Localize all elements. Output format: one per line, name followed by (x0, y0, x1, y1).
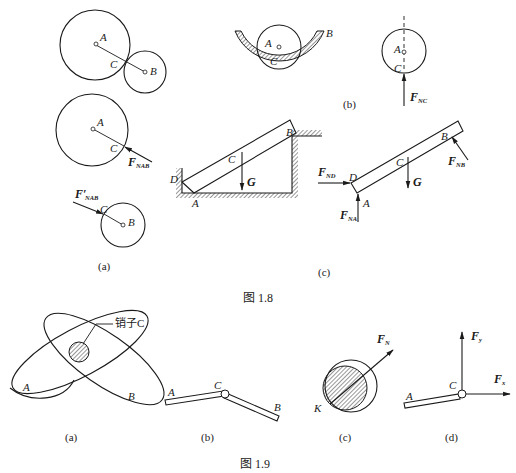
panel-label-d: (d) (445, 431, 458, 444)
disc-in-bowl: A C B (235, 25, 333, 69)
label-A: A (405, 390, 413, 402)
force-label-FNC: F (409, 90, 418, 104)
label-B: B (150, 65, 157, 77)
fig18-panel-a: A B C A C F NAB F′ NAB C B (a) (56, 10, 166, 273)
svg-text:N: N (384, 339, 390, 346)
svg-text:ND: ND (325, 172, 336, 179)
force-label-FNA: F (339, 208, 348, 222)
fig19-panel-d: A C F y F x (d) (404, 329, 510, 444)
panel-label-b: (b) (201, 431, 214, 444)
label-K: K (313, 402, 322, 414)
force-label-FNAB: F (127, 155, 136, 169)
label-C: C (449, 379, 457, 391)
panel-label-a: (a) (98, 260, 111, 273)
svg-text:NAB: NAB (135, 162, 150, 169)
force-arrow-FNAB-prime (73, 202, 103, 214)
force-label-Fx: F (493, 372, 502, 386)
label-G: G (413, 175, 422, 189)
label-C: C (100, 203, 108, 215)
label-A: A (264, 37, 272, 49)
label-A: A (22, 381, 30, 393)
force-label-FND: F (317, 165, 326, 179)
label-C: C (110, 58, 118, 70)
fig19-panel-a: A B 销子C (a) (2, 295, 177, 444)
fig18-panel-b: A C B A C F NC (b) (235, 16, 428, 111)
figure-caption-1-9: 图 1.9 (240, 457, 270, 471)
panel-label-b: (b) (343, 98, 356, 111)
label-C: C (110, 142, 118, 154)
svg-text:NB: NB (455, 161, 466, 168)
pin-C-label: 销子C (115, 316, 144, 329)
label-A: A (362, 197, 370, 209)
two-discs-contact: A B C (60, 10, 166, 93)
label-G: G (247, 175, 256, 189)
panel-label-c: (c) (339, 431, 352, 444)
fig18-panel-c: D A C B G D A C B G F ND F NA F NB (c) (169, 120, 468, 279)
force-label-FN: F (376, 332, 385, 346)
label-C: C (396, 156, 404, 168)
rod-in-pit: D A C B G (169, 120, 322, 209)
label-C: C (270, 55, 278, 67)
label-B: B (128, 390, 135, 402)
label-B: B (274, 401, 281, 413)
panel-label-a: (a) (65, 431, 78, 444)
label-C: C (228, 153, 236, 165)
label-D: D (169, 173, 178, 185)
label-C: C (394, 62, 402, 74)
label-B: B (441, 130, 448, 142)
label-A: A (393, 43, 401, 55)
label-D: D (348, 171, 357, 183)
fig19-panel-c: K F N (c) (313, 332, 393, 444)
svg-text:NC: NC (417, 97, 428, 104)
label-C: C (214, 379, 222, 391)
label-B: B (286, 126, 293, 138)
label-B: B (326, 27, 333, 39)
label-A: A (96, 116, 104, 128)
label-B: B (128, 216, 135, 228)
label-A: A (99, 31, 107, 43)
fig19-panel-b: A C B (b) (165, 379, 281, 444)
label-A: A (167, 386, 175, 398)
panel-label-c: (c) (318, 266, 331, 279)
svg-text:NA: NA (347, 215, 358, 222)
rod-free-body: D A C B G F ND F NA F NB (317, 121, 468, 222)
label-A: A (191, 197, 199, 209)
svg-text:x: x (501, 379, 506, 386)
figure-caption-1-8: 图 1.8 (243, 291, 273, 305)
disc-A-free-body: A C F NAB (56, 94, 152, 169)
mechanics-figure: A B C A C F NAB F′ NAB C B (a) (0, 0, 516, 473)
force-label-FNB: F (447, 154, 456, 168)
disc-free-body-FNC: A C F NC (382, 16, 428, 106)
force-label-Fy: F (470, 329, 479, 343)
svg-text:NAB: NAB (84, 194, 99, 201)
svg-text:y: y (478, 336, 482, 343)
